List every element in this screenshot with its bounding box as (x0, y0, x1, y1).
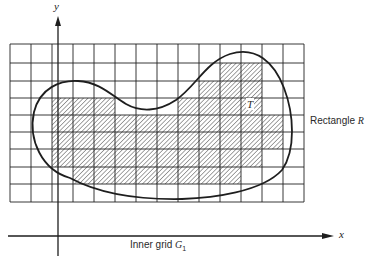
y-axis-arrow-icon (55, 16, 61, 26)
shaded-cell (157, 167, 178, 184)
shaded-cell (52, 149, 73, 167)
shaded-cell (220, 132, 241, 149)
shaded-cell (178, 98, 199, 115)
rectangle-r-label: Rectangle R (310, 115, 364, 126)
diagram-canvas (0, 0, 367, 264)
rectangle-text: Rectangle (310, 115, 355, 126)
shaded-cell (220, 63, 241, 81)
shaded-cell (199, 149, 220, 167)
shaded-cell (178, 132, 199, 149)
shaded-cell (178, 149, 199, 167)
shaded-cell (73, 132, 94, 149)
shaded-cell (52, 115, 73, 132)
shaded-cell (220, 98, 241, 115)
shaded-cell (157, 132, 178, 149)
shaded-cell (115, 149, 136, 167)
x-axis-label: x (339, 228, 344, 240)
shaded-cell (115, 115, 136, 132)
shaded-cell (73, 149, 94, 167)
shaded-cell (241, 63, 262, 81)
shaded-cell (199, 115, 220, 132)
shaded-cell (199, 98, 220, 115)
shaded-cell (262, 115, 283, 132)
shaded-cell (241, 81, 262, 98)
shaded-cell (115, 167, 136, 184)
shaded-cell (73, 98, 94, 115)
y-axis-label: y (54, 0, 59, 12)
region-t-label: T (246, 98, 254, 110)
inner-grid-text: Inner grid (130, 239, 172, 250)
shaded-cell (52, 98, 73, 115)
shaded-cell (157, 115, 178, 132)
inner-grid-subscript: 1 (182, 245, 186, 252)
shaded-cell (115, 132, 136, 149)
shaded-cell (262, 132, 283, 149)
shaded-cell (136, 132, 157, 149)
inner-grid-label: Inner grid G1 (130, 239, 186, 252)
shaded-cell (199, 167, 220, 184)
shaded-cell (199, 132, 220, 149)
shaded-cell (136, 149, 157, 167)
x-axis-arrow-icon (322, 233, 334, 239)
shaded-cell (136, 115, 157, 132)
shaded-cell (220, 115, 241, 132)
shaded-cell (220, 81, 241, 98)
shaded-cell (94, 132, 115, 149)
shaded-cell (241, 132, 262, 149)
shaded-cell (94, 115, 115, 132)
rectangle-symbol: R (358, 115, 364, 126)
shaded-cell (241, 149, 262, 167)
shaded-cell (220, 167, 241, 184)
shaded-cell (94, 98, 115, 115)
shaded-cell (241, 115, 262, 132)
shaded-cell (52, 132, 73, 149)
shaded-cell (199, 81, 220, 98)
shaded-cell (136, 167, 157, 184)
shaded-cell (94, 167, 115, 184)
shaded-cell (178, 167, 199, 184)
shaded-cell (94, 149, 115, 167)
shaded-cell (73, 115, 94, 132)
shaded-cell (178, 115, 199, 132)
shaded-cell (157, 149, 178, 167)
shaded-cell (220, 149, 241, 167)
